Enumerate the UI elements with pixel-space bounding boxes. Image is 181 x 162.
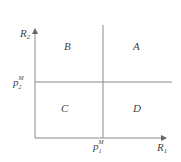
region-a: A (132, 40, 140, 52)
quadrant-diagram: R2 R1 pM2 pM1 B A C D (0, 0, 181, 162)
region-b: B (64, 40, 71, 52)
region-d: D (132, 102, 141, 114)
x-axis-label: R1 (156, 141, 167, 155)
region-c: C (61, 102, 69, 114)
x-threshold-label: pM1 (92, 139, 105, 154)
y-axis-label: R2 (19, 27, 31, 41)
y-threshold-label: pM2 (12, 75, 25, 90)
